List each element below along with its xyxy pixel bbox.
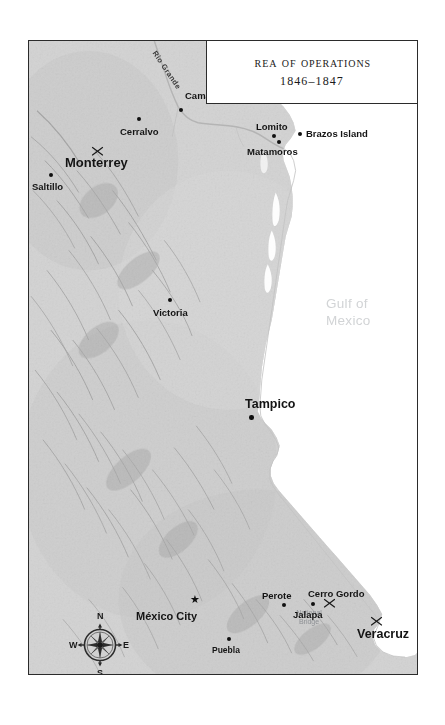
battle-symbol-monterrey bbox=[91, 146, 104, 157]
gulf-label-line2: Mexico bbox=[326, 313, 371, 330]
title-cartouche: Area of Operations 1846–1847 bbox=[206, 40, 418, 104]
label-saltillo: Saltillo bbox=[32, 182, 63, 192]
marker-saltillo bbox=[49, 173, 53, 177]
label-cerralvo: Cerralvo bbox=[120, 127, 159, 137]
marker-jalapa bbox=[311, 602, 315, 606]
label-jalapa: Jalapa bbox=[293, 610, 323, 620]
gulf-label-line1: Gulf of bbox=[326, 296, 371, 313]
marker-camargo bbox=[179, 108, 183, 112]
compass-rose: N S E W bbox=[69, 612, 131, 675]
marker-tampico bbox=[249, 415, 254, 420]
label-victoria: Victoria bbox=[153, 308, 188, 318]
label-mexico-city: México City bbox=[136, 611, 197, 622]
map-title-dates: 1846–1847 bbox=[280, 74, 344, 89]
label-puebla: Puebla bbox=[212, 646, 240, 655]
gulf-of-mexico-label: Gulf of Mexico bbox=[326, 296, 371, 330]
marker-matamoros bbox=[277, 140, 281, 144]
label-monterrey: Monterrey bbox=[65, 156, 128, 169]
label-veracruz: Veracruz bbox=[357, 628, 409, 641]
battle-symbol-veracruz bbox=[370, 616, 383, 627]
marker-cerralvo bbox=[137, 117, 141, 121]
marker-mexico-city-star: ★ bbox=[190, 594, 200, 605]
map-frame: Gulf of Mexico Rio Grande National Bridg… bbox=[28, 40, 418, 675]
label-tampico: Tampico bbox=[245, 398, 295, 411]
marker-puebla bbox=[227, 637, 231, 641]
compass-rose-glyph bbox=[69, 612, 131, 675]
marker-perote bbox=[282, 603, 286, 607]
marker-victoria bbox=[168, 298, 172, 302]
label-cerro-gordo: Cerro Gordo bbox=[308, 589, 364, 599]
battle-symbol-cerro-gordo bbox=[323, 598, 336, 609]
map-title: Area of Operations bbox=[253, 55, 371, 71]
label-matamoros: Matamoros bbox=[247, 147, 298, 157]
label-perote: Perote bbox=[262, 591, 292, 601]
label-lomito: Lomito bbox=[256, 122, 288, 132]
marker-lomito bbox=[272, 134, 276, 138]
label-brazos-island: Brazos Island bbox=[306, 129, 368, 139]
marker-brazos-island bbox=[298, 132, 302, 136]
area-of-operations-map: Gulf of Mexico Rio Grande National Bridg… bbox=[0, 0, 445, 725]
